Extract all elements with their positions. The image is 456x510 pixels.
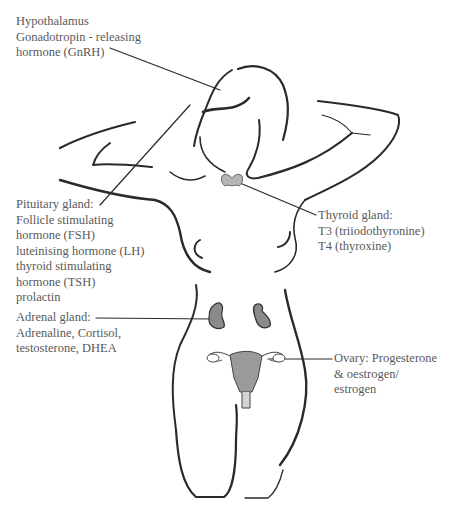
left-waist — [173, 285, 197, 430]
face-curve — [200, 137, 225, 172]
label-line: Pituitary gland: — [16, 197, 144, 213]
thyroid-gland — [221, 174, 242, 186]
label-line: T3 (triiodothyronine) — [318, 224, 425, 240]
kidney-right — [253, 304, 270, 328]
right-arm-inner — [322, 115, 370, 135]
right-arm-upper — [258, 133, 352, 178]
uterus — [207, 351, 285, 408]
right-arm-outer — [305, 101, 399, 200]
pituitary-label: Pituitary gland: Follicle stimulating ho… — [16, 197, 144, 306]
label-line: hormone (TSH) — [16, 275, 144, 291]
label-line: & oestrogen/ — [334, 367, 437, 383]
label-line: hormone (GnRH) — [16, 45, 141, 61]
jaw-right — [247, 120, 260, 178]
label-line: Follicle stimulating — [16, 213, 144, 229]
label-line: Adrenaline, Cortisol, — [16, 326, 121, 342]
left-leg — [176, 405, 237, 497]
right-leg-bottom — [245, 470, 283, 498]
kidney-left — [209, 303, 224, 329]
label-line: estrogen — [334, 382, 437, 398]
label-line: Thyroid gland: — [318, 208, 425, 224]
left-arm-elbow — [93, 143, 152, 167]
label-line: thyroid stimulating — [16, 259, 144, 275]
right-breast — [278, 232, 290, 247]
label-line: prolactin — [16, 290, 144, 306]
label-line: T4 (thyroxine) — [318, 239, 425, 255]
adrenal-label: Adrenal gland: Adrenaline, Cortisol, tes… — [16, 310, 121, 357]
label-line: hormone (FSH) — [16, 228, 144, 244]
label-line: Hypothalamus — [16, 14, 141, 30]
right-waist — [280, 290, 306, 465]
label-line: testosterone, DHEA — [16, 341, 121, 357]
label-line: Ovary: Progesterone — [334, 351, 437, 367]
shoulder-left — [170, 172, 205, 180]
label-line: Adrenal gland: — [16, 310, 121, 326]
thyroid-label: Thyroid gland: T3 (triiodothyronine) T4 … — [318, 208, 425, 255]
hypothalamus-label: Hypothalamus Gonadotropin - releasing ho… — [16, 14, 141, 61]
left-breast — [195, 240, 202, 258]
hair-top — [238, 66, 288, 140]
pituitary-leader — [100, 105, 190, 205]
thyroid-leader — [240, 183, 316, 215]
left-arm-upper — [60, 122, 135, 148]
ovary-label: Ovary: Progesterone & oestrogen/ estroge… — [334, 351, 437, 398]
label-line: luteinising hormone (LH) — [16, 244, 144, 260]
label-line: Gonadotropin - releasing — [16, 30, 141, 46]
